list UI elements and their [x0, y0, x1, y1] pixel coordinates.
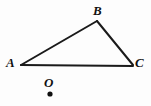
point-o-dot [47, 91, 52, 96]
vertex-label-a: A [6, 56, 15, 69]
vertex-label-b: B [93, 4, 102, 17]
vertex-label-c: C [135, 56, 144, 69]
geometry-figure: A B C O [0, 0, 151, 106]
triangle-edge-bc [97, 21, 133, 65]
point-label-o: O [44, 76, 53, 89]
triangle-edge-ac [21, 65, 133, 66]
triangle-edge-ab [21, 21, 97, 65]
triangle-diagram-canvas [0, 0, 151, 106]
